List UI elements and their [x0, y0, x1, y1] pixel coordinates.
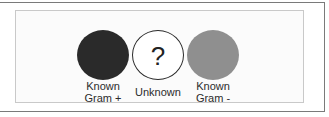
unknown-circle: ? [132, 30, 184, 80]
question-mark-icon: ? [151, 43, 165, 69]
known-gram-negative-circle [187, 30, 239, 80]
label-line: Gram - [178, 92, 248, 104]
label-line: Known [178, 80, 248, 92]
known-gram-positive-circle [77, 30, 129, 80]
known-gram-negative-label: Known Gram - [178, 80, 248, 104]
